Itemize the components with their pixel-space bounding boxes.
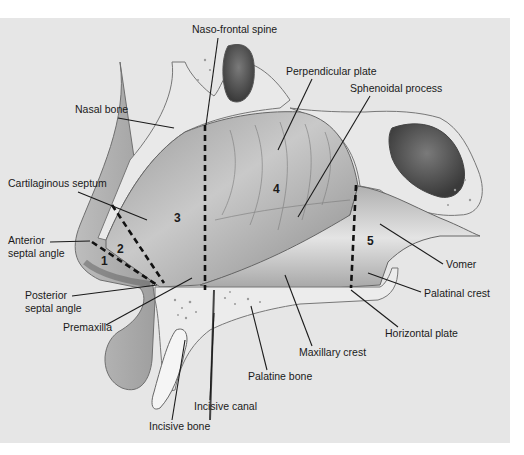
maxillary-crest-label: Maxillary crest xyxy=(299,346,366,358)
frontal-sinus xyxy=(223,44,254,101)
posterior-septal-angle-label: septal angle xyxy=(25,302,82,314)
vomer-label: Vomer xyxy=(446,258,477,270)
region-4-number: 4 xyxy=(273,182,280,196)
nasal-bone-label: Nasal bone xyxy=(75,103,128,115)
region-1-number: 1 xyxy=(101,254,108,268)
nasal-septum-diagram: 12345 Naso-frontal spinePerpendicular pl… xyxy=(0,0,524,455)
perpendicular-plate-label: Perpendicular plate xyxy=(286,65,377,77)
incisive-bone-label: Incisive bone xyxy=(149,420,210,432)
anterior-septal-angle-label: Anterior xyxy=(8,234,45,246)
horizontal-plate-label: Horizontal plate xyxy=(385,327,458,339)
region-2-number: 2 xyxy=(117,242,124,256)
naso-frontal-spine-label: Naso-frontal spine xyxy=(192,23,277,35)
incisive-canal-label: Incisive canal xyxy=(194,400,257,412)
anterior-septal-angle-label: septal angle xyxy=(8,247,65,259)
sphenoidal-process-label: Sphenoidal process xyxy=(350,82,442,94)
cartilaginous-septum-label: Cartilaginous septum xyxy=(8,177,107,189)
region-5-number: 5 xyxy=(367,234,374,248)
premaxilla-label: Premaxilla xyxy=(63,321,112,333)
region-3-number: 3 xyxy=(174,211,181,225)
palatinal-crest-label: Palatinal crest xyxy=(424,287,490,299)
palatine-bone-label: Palatine bone xyxy=(248,370,312,382)
posterior-septal-angle-label: Posterior xyxy=(25,289,68,301)
